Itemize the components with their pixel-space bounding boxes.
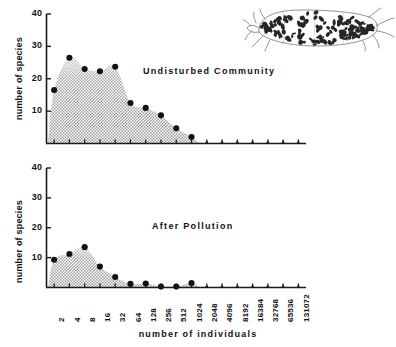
- x-tick-label-16384: 16384: [256, 299, 265, 322]
- x-tick-label-4096: 4096: [225, 303, 234, 322]
- x-tick-label-16: 16: [103, 313, 112, 322]
- x-tick-label-32: 32: [118, 313, 127, 322]
- x-tick-label-256: 256: [164, 308, 173, 322]
- x-tick-label-1024: 1024: [195, 303, 204, 322]
- x-tick-label-512: 512: [179, 308, 188, 322]
- x-tick-label-2048: 2048: [210, 303, 219, 322]
- x-tick-labels: 2481632641282565121024204840968192163843…: [0, 0, 396, 347]
- x-tick-label-131072: 131072: [302, 294, 311, 322]
- x-tick-label-2: 2: [57, 317, 66, 322]
- x-tick-label-128: 128: [149, 308, 158, 322]
- x-tick-label-64: 64: [134, 313, 143, 322]
- x-tick-label-4: 4: [73, 317, 82, 322]
- x-tick-label-65536: 65536: [286, 299, 295, 322]
- x-tick-label-32768: 32768: [271, 299, 280, 322]
- x-tick-label-8: 8: [88, 317, 97, 322]
- figure-root: number of species number of species 1020…: [0, 0, 396, 347]
- x-tick-label-8192: 8192: [241, 303, 250, 322]
- x-axis-label: number of individuals: [0, 329, 396, 339]
